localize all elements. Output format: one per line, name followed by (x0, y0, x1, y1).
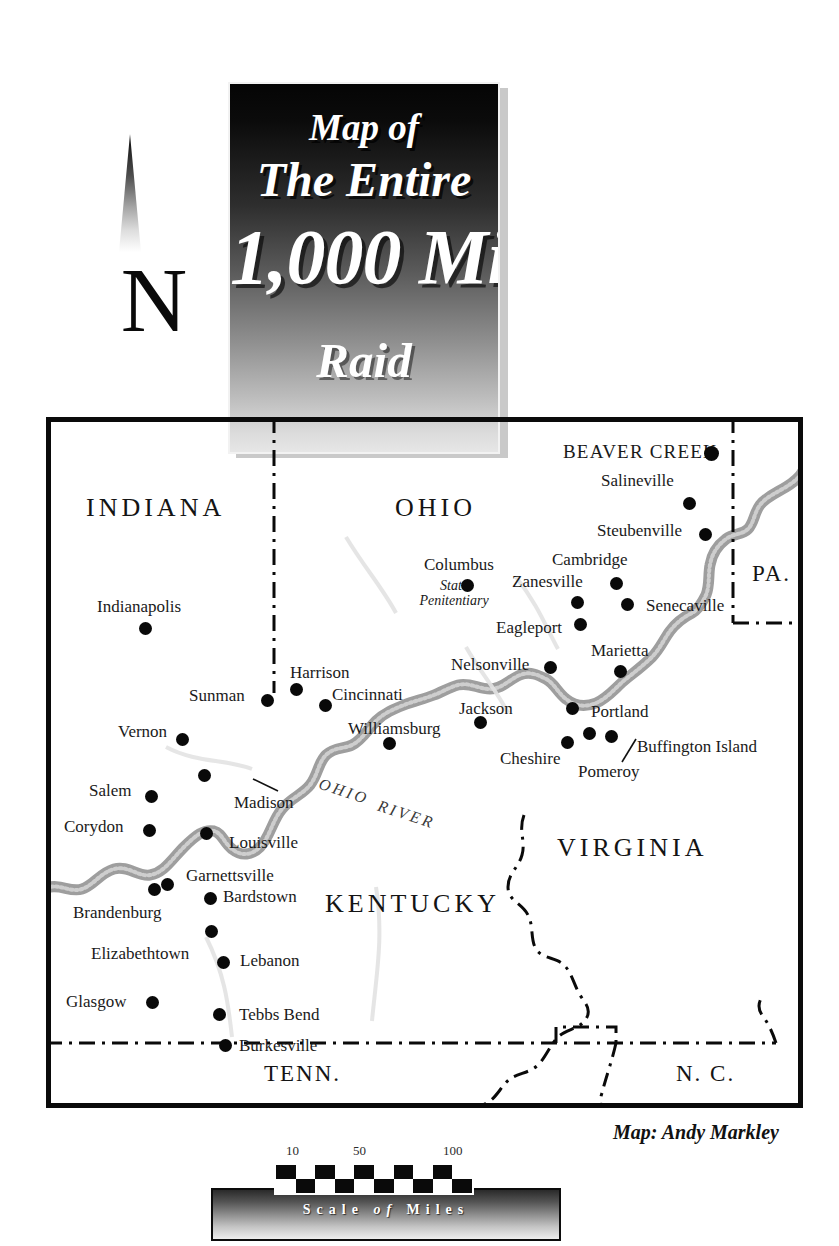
title-line-1: Map of (230, 106, 498, 149)
north-arrow-icon (92, 132, 222, 262)
city-label-nelsonville: Nelsonville (451, 655, 529, 675)
city-label-jackson: Jackson (459, 699, 513, 719)
scale-checker-row-top (276, 1165, 472, 1179)
city-label-eagleport: Eagleport (496, 618, 562, 638)
compass-rose: N (92, 132, 222, 372)
city-label-tebbs-bend: Tebbs Bend (239, 1005, 320, 1025)
city-label-harrison: Harrison (290, 663, 349, 683)
scale-tick-10: 10 (286, 1143, 299, 1159)
state-label-virginia: VIRGINIA (557, 833, 707, 863)
city-label-cincinnati: Cincinnati (332, 685, 403, 705)
columbus-subtitle-line2: Penitentiary (419, 593, 488, 608)
scale-caption-mid: of (373, 1202, 397, 1217)
city-dot-cheshire (561, 736, 574, 749)
city-dot-salineville (683, 497, 696, 510)
city-dot-salem (145, 790, 158, 803)
city-label-portland: Portland (591, 702, 649, 722)
city-label-brandenburg: Brandenburg (73, 903, 161, 923)
city-dot-buffington-island (605, 730, 618, 743)
city-label-senecaville: Senecaville (646, 596, 724, 616)
state-label-n-c: N. C. (676, 1061, 735, 1087)
city-dot-cincinnati (319, 699, 332, 712)
scale-checkerboard (274, 1163, 474, 1195)
scale-tick-100: 100 (443, 1143, 463, 1159)
scale-caption: Scale of Miles (213, 1202, 559, 1218)
city-dot-columbus (461, 579, 474, 592)
state-label-tenn: TENN. (264, 1061, 341, 1087)
title-plaque: Map of The Entire 1,000 Mile Raid (228, 82, 500, 454)
city-label-buffington-island: Buffington Island (637, 737, 757, 757)
city-label-corydon: Corydon (64, 817, 124, 837)
title-line-2: The Entire (230, 152, 498, 207)
city-label-garnettsville: Garnettsville (186, 866, 274, 886)
city-dot-harrison (290, 683, 303, 696)
city-dot-tebbs-bend (213, 1008, 226, 1021)
city-label-salem: Salem (89, 781, 132, 801)
city-label-williamsburg: Williamsburg (348, 719, 441, 739)
map-credit: Map: Andy Markley (613, 1121, 779, 1144)
city-label-madison: Madison (234, 793, 294, 813)
city-dot-vernon (176, 733, 189, 746)
city-dot-williamsburg (383, 737, 396, 750)
city-dot-bardstown (204, 892, 217, 905)
city-label-vernon: Vernon (118, 722, 167, 742)
state-label-kentucky: KENTUCKY (325, 889, 500, 919)
city-dot-senecaville (621, 598, 634, 611)
state-label-pa: PA. (752, 561, 791, 587)
city-label-glasgow: Glasgow (66, 992, 126, 1012)
city-label-cheshire: Cheshire (500, 749, 560, 769)
city-label-zanesville: Zanesville (512, 572, 583, 592)
title-line-3: 1,000 Mile (230, 212, 498, 302)
scale-bar: Scale of Miles 10 50 100 (211, 1163, 561, 1241)
city-dot-nelsonville (544, 661, 557, 674)
city-dot-garnettsville (161, 878, 174, 891)
city-dot-beaver-creek (704, 446, 719, 461)
city-label-marietta: Marietta (591, 641, 649, 661)
compass-north-label: N (94, 254, 214, 346)
city-label-louisville: Louisville (229, 833, 298, 853)
city-label-indianapolis: Indianapolis (97, 597, 181, 617)
city-dot-indianapolis (139, 622, 152, 635)
city-dot-elizabethtown (205, 925, 218, 938)
city-label-pomeroy: Pomeroy (578, 762, 639, 782)
city-label-salineville: Salineville (601, 471, 674, 491)
map-page: N Map of The Entire 1,000 Mile Raid (0, 0, 839, 1246)
state-label-ohio: OHIO (395, 493, 476, 523)
city-dot-madison (198, 769, 211, 782)
scale-tick-50: 50 (353, 1143, 366, 1159)
city-dot-steubenville (699, 528, 712, 541)
city-dot-eagleport (574, 618, 587, 631)
city-dot-louisville (200, 827, 213, 840)
city-label-sunman: Sunman (189, 686, 245, 706)
city-dot-corydon (143, 824, 156, 837)
city-dot-sunman (261, 694, 274, 707)
scale-caption-pre: Scale (303, 1202, 364, 1217)
city-dot-portland (566, 702, 579, 715)
scale-checker-row-bottom (276, 1179, 472, 1193)
city-dot-burkesville (219, 1039, 232, 1052)
scale-caption-post: Miles (407, 1202, 470, 1217)
city-label-burkesville: Burkesville (239, 1036, 317, 1056)
city-dot-zanesville (571, 596, 584, 609)
city-label-columbus: Columbus (424, 555, 494, 575)
city-label-lebanon: Lebanon (240, 951, 299, 971)
city-label-cambridge: Cambridge (552, 550, 628, 570)
city-dot-jackson (474, 716, 487, 729)
city-label-steubenville: Steubenville (597, 521, 682, 541)
city-dot-marietta (614, 665, 627, 678)
city-label-elizabethtown: Elizabethtown (91, 944, 189, 964)
scale-plate: Scale of Miles (211, 1188, 561, 1241)
city-label-beaver-creek: BEAVER CREEK (563, 441, 718, 463)
title-line-4: Raid (230, 332, 498, 389)
city-dot-lebanon (217, 956, 230, 969)
city-label-bardstown: Bardstown (223, 887, 297, 907)
state-label-indiana: INDIANA (86, 493, 225, 523)
city-dot-glasgow (146, 996, 159, 1009)
city-dot-pomeroy (583, 727, 596, 740)
columbus-subtitle: State Penitentiary (414, 578, 494, 608)
city-dot-brandenburg (148, 883, 161, 896)
city-dot-cambridge (610, 577, 623, 590)
